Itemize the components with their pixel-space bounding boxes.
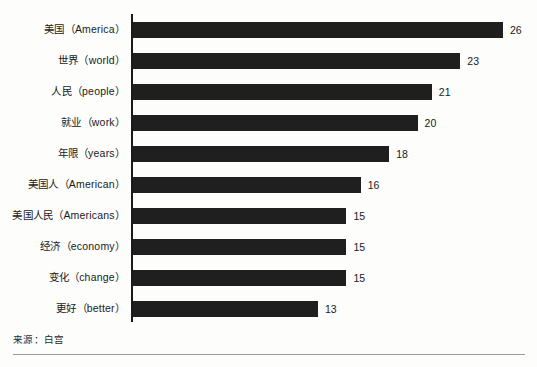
bar-wrapper: 23 xyxy=(133,53,537,69)
bar-fill xyxy=(133,146,389,162)
bar-value-label: 21 xyxy=(439,84,451,100)
bar-row: 经济（economy） 15 xyxy=(0,231,537,262)
bar-rows: 美国（America） 26 世界（world） 23 人民（people） 2… xyxy=(0,14,537,324)
bar-wrapper: 15 xyxy=(133,270,537,286)
category-label: 人民（people） xyxy=(51,76,125,107)
category-label: 美国（America） xyxy=(44,14,125,45)
bar-fill xyxy=(133,177,361,193)
bar-fill xyxy=(133,115,418,131)
bar-fill xyxy=(133,22,503,38)
bar-value-label: 18 xyxy=(396,146,408,162)
category-label: 就业（work） xyxy=(61,107,125,138)
bar-value-label: 26 xyxy=(510,22,522,38)
bar-chart: 美国（America） 26 世界（world） 23 人民（people） 2… xyxy=(0,0,537,367)
bar-wrapper: 15 xyxy=(133,208,537,224)
bar-row: 变化（change） 15 xyxy=(0,262,537,293)
bar-row: 就业（work） 20 xyxy=(0,107,537,138)
bar-value-label: 23 xyxy=(467,53,479,69)
bar-fill xyxy=(133,239,346,255)
bar-row: 美国人（American） 16 xyxy=(0,169,537,200)
bar-fill xyxy=(133,53,460,69)
category-label: 更好（better） xyxy=(56,293,125,324)
category-label: 美国人民（Americans） xyxy=(12,200,125,231)
bar-fill xyxy=(133,270,346,286)
category-label: 经济（economy） xyxy=(40,231,125,262)
bar-wrapper: 21 xyxy=(133,84,537,100)
bar-fill xyxy=(133,84,432,100)
bar-wrapper: 18 xyxy=(133,146,537,162)
bar-wrapper: 16 xyxy=(133,177,537,193)
bar-row: 美国（America） 26 xyxy=(0,14,537,45)
bar-value-label: 15 xyxy=(353,208,365,224)
bar-value-label: 20 xyxy=(425,115,437,131)
bar-fill xyxy=(133,301,318,317)
bar-wrapper: 20 xyxy=(133,115,537,131)
bar-row: 世界（world） 23 xyxy=(0,45,537,76)
bar-row: 更好（better） 13 xyxy=(0,293,537,324)
bar-row: 人民（people） 21 xyxy=(0,76,537,107)
bar-value-label: 15 xyxy=(353,270,365,286)
bar-row: 美国人民（Americans） 15 xyxy=(0,200,537,231)
bar-value-label: 15 xyxy=(353,239,365,255)
bar-wrapper: 26 xyxy=(133,22,537,38)
category-label: 世界（world） xyxy=(58,45,125,76)
bar-value-label: 13 xyxy=(325,301,337,317)
bottom-divider xyxy=(13,354,525,355)
bar-wrapper: 13 xyxy=(133,301,537,317)
bar-wrapper: 15 xyxy=(133,239,537,255)
bar-value-label: 16 xyxy=(368,177,380,193)
plot-area: 美国（America） 26 世界（world） 23 人民（people） 2… xyxy=(0,0,537,330)
bar-fill xyxy=(133,208,346,224)
category-label: 美国人（American） xyxy=(28,169,125,200)
category-label: 年限（years） xyxy=(58,138,125,169)
category-label: 变化（change） xyxy=(49,262,125,293)
source-note: 来源：白宫 xyxy=(13,332,65,346)
bar-row: 年限（years） 18 xyxy=(0,138,537,169)
